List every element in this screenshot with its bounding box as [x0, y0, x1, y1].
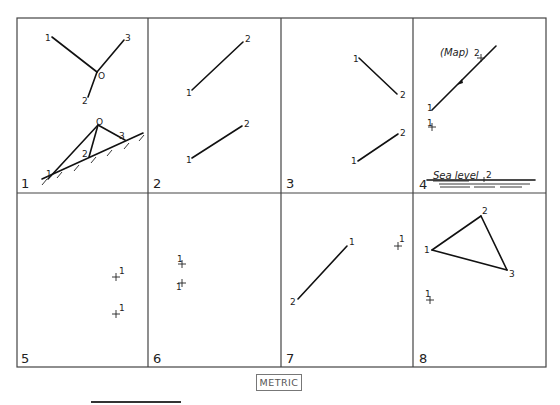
ground-hatch: [91, 157, 96, 163]
line-segment: [432, 250, 507, 270]
panel-grid: [17, 18, 546, 367]
ground-hatch: [74, 165, 79, 171]
line-segment: [481, 216, 507, 270]
point-label: 1: [353, 54, 359, 64]
line-segment: [52, 37, 97, 72]
point-label: 3: [119, 131, 125, 141]
line-segment: [97, 40, 124, 72]
point-label: O: [98, 71, 105, 81]
point-label: 2: [245, 34, 251, 44]
panel-number: 4: [419, 177, 427, 192]
point-label: 1: [425, 289, 431, 299]
point-label: 2: [244, 119, 250, 129]
panel-number: 1: [21, 176, 29, 191]
line-segment: [88, 72, 97, 97]
point-label: 2: [400, 90, 406, 100]
panel-2: 22121: [153, 34, 251, 191]
ground-hatch: [42, 179, 47, 185]
panel-number: 8: [419, 351, 427, 366]
scale-bar: [91, 401, 181, 403]
panel-number: 6: [153, 351, 161, 366]
point-label: 2: [400, 128, 406, 138]
point-label: 1: [176, 282, 182, 292]
panel-5: 511: [21, 266, 125, 366]
point-label: 1: [119, 266, 125, 276]
panel-number: 3: [286, 176, 294, 191]
point-label: 2: [290, 297, 296, 307]
panel-number: 2: [153, 176, 161, 191]
point-label: 1: [46, 169, 52, 179]
panel-7: 7121: [286, 234, 405, 366]
point-label: 1: [399, 234, 405, 244]
line-segment: [359, 58, 397, 94]
panel-8: 82131: [419, 206, 515, 366]
point-label: 1: [424, 245, 430, 255]
point-label: 2: [82, 96, 88, 106]
panel-number: 7: [286, 351, 294, 366]
line-segment: [358, 134, 398, 161]
point-label: 1: [45, 33, 51, 43]
sea-level-label: Sea level: [433, 170, 479, 181]
point-label: 1: [186, 155, 192, 165]
diagram-canvas: 113O2O23122121312214211(Map)Sea level251…: [0, 0, 560, 405]
ground-hatch: [124, 143, 129, 149]
panel-1: 113O2O231: [21, 33, 144, 191]
point-label: 2: [486, 170, 492, 180]
point-label: 2: [482, 206, 488, 216]
panel-4: 4211(Map)Sea level2: [419, 46, 535, 192]
point-label: 2: [474, 48, 480, 58]
point-label: 1: [119, 303, 125, 313]
point-label: 1: [177, 254, 183, 264]
point-label: 1: [427, 103, 433, 113]
panel-6: 611: [153, 254, 186, 366]
ground-hatch: [107, 150, 112, 156]
ground-hatch: [57, 172, 62, 178]
line-segment: [298, 246, 347, 299]
point-label: 1: [186, 88, 192, 98]
point-label: 3: [125, 33, 131, 43]
point-label: 3: [509, 269, 515, 279]
metric-label: METRIC: [256, 374, 302, 391]
line-segment: [192, 42, 243, 90]
point-label: 1: [349, 237, 355, 247]
ground-hatch: [139, 135, 144, 141]
panels: 113O2O23122121312214211(Map)Sea level251…: [21, 33, 535, 366]
point-label: 1: [427, 118, 433, 128]
line-segment: [432, 216, 481, 250]
map-label: (Map): [440, 47, 469, 58]
line-segment: [42, 133, 143, 179]
point-label: 2: [82, 149, 88, 159]
panel-number: 5: [21, 351, 29, 366]
point-label: O: [96, 117, 103, 127]
direction-arrow-icon: [457, 79, 463, 85]
line-segment: [192, 126, 242, 158]
panel-3: 31221: [286, 54, 406, 191]
point-label: 1: [351, 156, 357, 166]
